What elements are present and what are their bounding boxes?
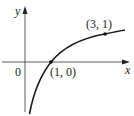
origin-label: 0: [15, 65, 21, 79]
point-label-3-1: (3, 1): [86, 17, 112, 31]
log-curve: [30, 30, 126, 114]
point-3-1: [103, 32, 107, 36]
y-axis-label: y: [14, 4, 21, 18]
log-graph: y x 0 (1, 0) (3, 1): [0, 0, 134, 116]
point-label-1-0: (1, 0): [50, 65, 76, 79]
point-1-0: [49, 60, 53, 64]
x-axis-label: x: [124, 63, 131, 77]
y-axis-arrow-icon: [23, 6, 28, 14]
